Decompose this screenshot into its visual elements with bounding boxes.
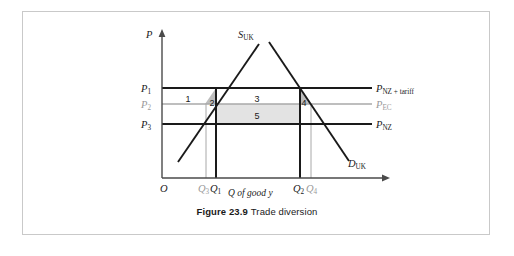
price-label-p1: P1 — [140, 83, 151, 96]
origin-label: O — [160, 183, 168, 194]
price-label-pec: PEC — [375, 99, 392, 112]
region-label-4: 4 — [301, 98, 306, 108]
price-label-p3: P3 — [140, 119, 151, 132]
demand-curve-label: DUK — [347, 158, 367, 171]
y-axis-arrowhead — [159, 29, 166, 37]
region-label-5: 5 — [254, 111, 259, 121]
supply-curve-label: SUK — [238, 29, 254, 42]
demand-curve-duk — [269, 42, 349, 161]
price-label-pnz: PNZ — [375, 119, 392, 132]
y-axis-label: P — [145, 29, 153, 40]
figure-container: P O Q of good y P1 P2 P3 PNZ + tariff PE… — [0, 0, 514, 256]
figure-caption-number: Figure 23.9 — [197, 206, 248, 217]
figure-caption-text: Trade diversion — [251, 206, 318, 217]
quantity-label-q2: Q2 — [293, 183, 305, 196]
price-label-pnz-tariff: PNZ + tariff — [375, 83, 414, 96]
x-axis-label: Q of good y — [228, 188, 273, 198]
price-label-p2: P2 — [140, 99, 151, 112]
trade-diversion-chart: P O Q of good y P1 P2 P3 PNZ + tariff PE… — [0, 0, 514, 256]
quantity-label-q1: Q1 — [210, 183, 222, 196]
region-label-3: 3 — [254, 94, 259, 104]
quantity-label-q3: Q3 — [198, 183, 210, 196]
region-label-2: 2 — [209, 98, 214, 108]
region-label-1: 1 — [185, 94, 190, 104]
x-axis-arrowhead — [382, 175, 390, 182]
figure-caption: Figure 23.9Trade diversion — [0, 206, 514, 217]
quantity-label-q4: Q4 — [306, 183, 318, 196]
